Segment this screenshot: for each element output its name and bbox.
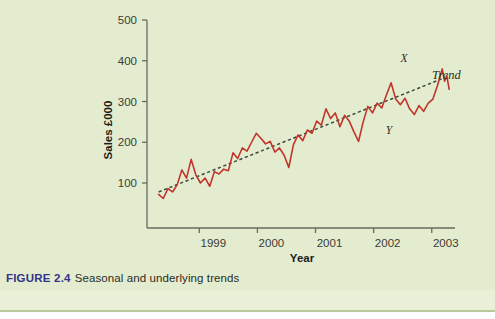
seasonal-trend-chart: 100200300400500 19992000200120022003 Sal…	[0, 0, 495, 268]
page-bottom-band	[0, 290, 495, 310]
sales-line-series	[159, 69, 450, 199]
y-axis-title: Sales £000	[102, 101, 114, 160]
y-tick-label: 400	[118, 55, 137, 67]
x-axis-title: Year	[290, 252, 315, 264]
trend-annotation-label: Trend	[432, 68, 461, 82]
x-tick-label: 2003	[433, 237, 459, 249]
annotation-x-label: X	[399, 52, 408, 64]
x-tick-label: 2001	[317, 237, 343, 249]
figure-caption: FIGURE 2.4Seasonal and underlying trends	[6, 272, 486, 284]
y-tick-label: 300	[118, 96, 137, 108]
figure-number-label: FIGURE 2.4	[6, 272, 71, 284]
x-tick-label: 1999	[201, 237, 227, 249]
y-tick-label: 200	[118, 136, 137, 148]
x-axis-ticks: 19992000200120022003	[199, 228, 458, 249]
y-tick-label: 100	[118, 177, 137, 189]
y-tick-label: 500	[118, 14, 137, 26]
figure-caption-text: Seasonal and underlying trends	[75, 272, 240, 284]
figure-page: 100200300400500 19992000200120022003 Sal…	[0, 0, 495, 319]
annotation-y-label: Y	[386, 124, 394, 136]
x-tick-label: 2002	[375, 237, 401, 249]
page-foot-margin	[0, 312, 495, 319]
chart-area: 100200300400500 19992000200120022003 Sal…	[0, 0, 495, 268]
trend-line-series	[159, 79, 443, 192]
x-tick-label: 2000	[259, 237, 285, 249]
y-axis-ticks: 100200300400500	[118, 14, 147, 189]
